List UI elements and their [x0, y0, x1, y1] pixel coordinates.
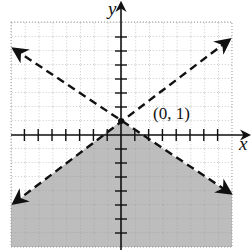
- y-axis-label: y: [108, 0, 116, 20]
- vertex-label: (0, 1): [153, 104, 190, 124]
- vertex-point: [118, 118, 124, 124]
- x-axis-label: x: [239, 133, 247, 155]
- coordinate-plane: [0, 0, 251, 250]
